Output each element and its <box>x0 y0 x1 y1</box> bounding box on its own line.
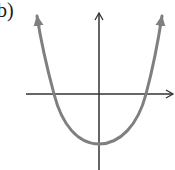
parabola-graph <box>0 0 175 170</box>
parabola-right-arm <box>99 16 162 144</box>
parabola-left-arm <box>37 16 99 144</box>
